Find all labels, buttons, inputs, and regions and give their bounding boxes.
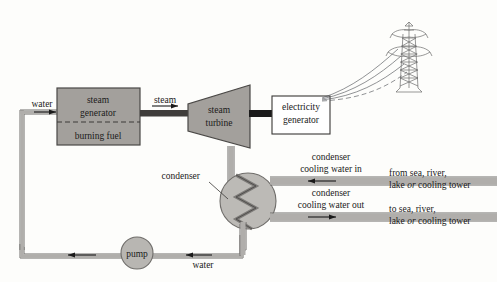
source-out-lake: lake: [389, 216, 407, 226]
label-steam-generator-line2: generator: [80, 108, 117, 118]
steam-turbine-shape: [188, 85, 250, 148]
label-water-in: water: [31, 99, 53, 109]
steam-pipe: [140, 106, 190, 117]
label-electricity-generator-line1: electricity: [282, 102, 320, 112]
label-burning-fuel: burning fuel: [75, 131, 122, 141]
source-out-or: or: [407, 216, 416, 226]
power-plant-diagram: water steam generator burning fuel steam…: [0, 0, 497, 282]
label-condenser: condenser: [161, 171, 200, 181]
label-source-in-line2: lake or cooling tower: [389, 180, 471, 190]
condenser-unit: [209, 173, 276, 229]
label-water-return: water: [192, 260, 214, 270]
source-out-tower: cooling tower: [416, 216, 472, 226]
label-cooling-water-in-line1: condenser: [312, 152, 351, 162]
label-steam-turbine-line1: steam: [208, 105, 231, 115]
label-steam-generator-line1: steam: [87, 95, 110, 105]
label-source-out-line1: to sea, river,: [389, 204, 436, 214]
label-cooling-water-out-line1: condenser: [312, 188, 351, 198]
label-steam: steam: [154, 95, 177, 105]
diagram-canvas: water steam generator burning fuel steam…: [0, 0, 497, 282]
condenser-outlet-pipe: [240, 222, 246, 256]
label-cooling-water-out-line2: cooling water out: [298, 200, 365, 210]
label-cooling-water-in-line2: cooling water in: [300, 164, 362, 174]
label-source-in-line1: from sea, river,: [389, 168, 447, 178]
source-in-tower: cooling tower: [416, 180, 472, 190]
label-steam-turbine-line2: turbine: [206, 118, 233, 128]
label-pump: pump: [126, 249, 148, 259]
source-in-or: or: [407, 180, 416, 190]
transmission-lines: [322, 49, 407, 101]
turbine-condenser-pipe: [228, 146, 234, 182]
source-in-lake: lake: [389, 180, 407, 190]
label-electricity-generator-line2: generator: [283, 115, 320, 125]
turbine-generator-shaft: [249, 110, 273, 117]
label-source-out-line2: lake or cooling tower: [389, 216, 471, 226]
